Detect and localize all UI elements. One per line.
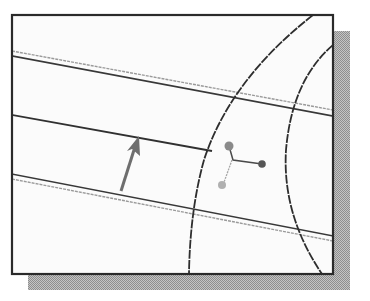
- node-dot-right: [258, 160, 266, 168]
- node-dot-lower: [218, 181, 226, 189]
- cad-sketch-figure: CAD sketch: parallel lines, two arcs, se…: [0, 0, 370, 301]
- node-dot-upper: [225, 142, 234, 151]
